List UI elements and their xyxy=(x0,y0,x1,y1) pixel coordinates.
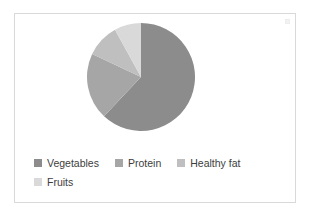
legend-swatch-icon xyxy=(115,159,123,167)
legend-item-vegetables[interactable]: Vegetables xyxy=(34,157,99,169)
chart-corner-marker xyxy=(285,19,290,24)
pie-slice-group xyxy=(87,23,195,131)
legend-item-label: Vegetables xyxy=(47,157,99,169)
legend-item-label: Healthy fat xyxy=(190,157,240,169)
legend-row: Fruits xyxy=(34,172,289,191)
legend-swatch-icon xyxy=(34,159,42,167)
legend-item-protein[interactable]: Protein xyxy=(115,157,161,169)
legend-swatch-icon xyxy=(177,159,185,167)
legend-row: Vegetables Protein Healthy fat xyxy=(34,153,289,172)
legend-item-label: Protein xyxy=(128,157,161,169)
pie-chart-graphic[interactable] xyxy=(86,22,196,132)
legend-item-fruits[interactable]: Fruits xyxy=(34,176,73,188)
legend-item-healthy-fat[interactable]: Healthy fat xyxy=(177,157,240,169)
pie-chart-plot-area[interactable] xyxy=(15,14,297,146)
legend-swatch-icon xyxy=(34,178,42,186)
chart-frame[interactable]: Vegetables Protein Healthy fat Fruits xyxy=(14,13,296,203)
chart-legend[interactable]: Vegetables Protein Healthy fat Fruits xyxy=(34,153,289,191)
legend-item-label: Fruits xyxy=(47,176,73,188)
